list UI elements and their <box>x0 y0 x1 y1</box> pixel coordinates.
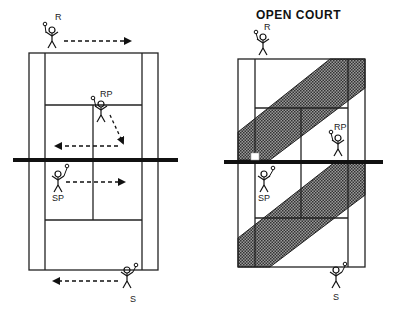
left-label-s: S <box>130 294 136 304</box>
right-label-r: R <box>264 22 271 32</box>
left-court: R RP SP S <box>13 12 178 304</box>
right-label-rp: RP <box>334 122 347 132</box>
left-player-sp: SP <box>52 164 69 203</box>
right-court-title: OPEN COURT <box>256 8 341 22</box>
left-player-s: S <box>121 263 138 304</box>
right-player-sp: SP <box>258 166 275 203</box>
right-court-shuttle-marker <box>251 153 259 160</box>
right-label-sp: SP <box>258 193 270 203</box>
left-label-rp: RP <box>100 89 113 99</box>
right-court: OPEN COURT R RP SP <box>224 8 383 302</box>
right-label-s: S <box>333 292 339 302</box>
left-player-r: R <box>43 12 62 48</box>
right-player-rp: RP <box>329 122 346 156</box>
right-player-s: S <box>330 262 347 302</box>
diagram-canvas: R RP SP S OPEN COURT <box>0 0 393 313</box>
left-arrow-rp-down <box>110 115 123 143</box>
left-label-sp: SP <box>52 193 64 203</box>
right-player-r: R <box>254 22 271 55</box>
left-label-r: R <box>55 12 62 22</box>
